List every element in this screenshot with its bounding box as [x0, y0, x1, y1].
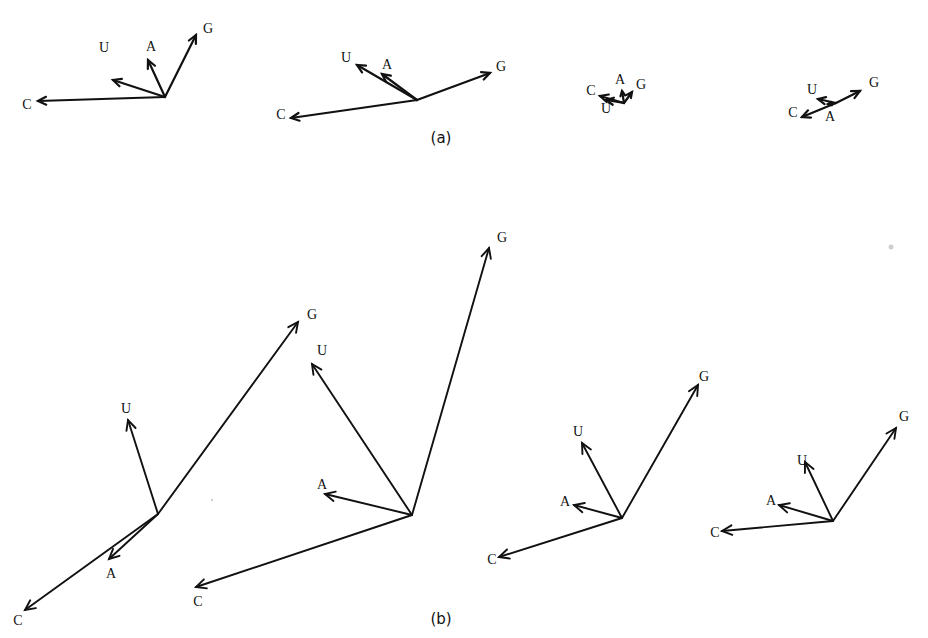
diagram-b-2: CUAG [193, 230, 507, 609]
base-label-c: C [276, 107, 285, 122]
base-label-a: A [560, 494, 571, 509]
vector-g: G [624, 77, 646, 103]
vector-g: G [165, 21, 213, 97]
base-label-u: U [317, 343, 327, 358]
panel-a: CUAGCUAGCUAGCUAG (a) [22, 21, 879, 147]
vector-shaft [499, 518, 622, 557]
vector-shaft [622, 385, 698, 518]
vector-a: A [146, 39, 165, 97]
diagram-b-4: CUAG [710, 409, 909, 540]
vector-shaft [128, 420, 158, 514]
base-label-u: U [341, 50, 351, 65]
diagram-a-3: CUAG [586, 72, 646, 116]
vector-shaft [382, 74, 417, 100]
vector-c: C [13, 514, 158, 628]
base-label-u: U [121, 401, 131, 416]
vector-c: C [487, 518, 622, 567]
vector-diagram-figure: CUAGCUAGCUAGCUAG (a) CUAGCUAGCUAGCUAG (b… [0, 0, 928, 638]
vector-g: G [417, 59, 506, 100]
base-label-u: U [573, 424, 583, 439]
panel-a-diagrams: CUAGCUAGCUAGCUAG [22, 21, 879, 124]
diagram-a-2: CUAG [276, 50, 506, 122]
diagram-b-3: CUAG [487, 369, 709, 567]
vector-shaft [325, 494, 412, 515]
vector-shaft [196, 515, 412, 587]
vector-shaft [805, 462, 833, 521]
base-label-g: G [307, 307, 317, 322]
vector-a: A [106, 514, 158, 581]
diagram-b-1: CUAG [13, 307, 317, 628]
panel-b: CUAGCUAGCUAGCUAG (b) [13, 230, 909, 628]
vector-shaft [833, 428, 896, 521]
diagram-a-4: CUAG [788, 75, 879, 124]
base-label-c: C [586, 83, 595, 98]
base-label-u: U [807, 82, 817, 97]
vector-a: A [317, 477, 412, 515]
base-label-c: C [487, 552, 496, 567]
vector-c: C [193, 515, 412, 609]
base-label-c: C [193, 594, 202, 609]
base-label-g: G [203, 21, 213, 36]
base-label-a: A [317, 477, 328, 492]
vector-a: A [560, 494, 622, 518]
base-label-c: C [710, 525, 719, 540]
vector-g: G [833, 409, 909, 521]
vector-shaft [38, 97, 165, 101]
vector-c: C [22, 97, 165, 112]
vector-c: C [276, 100, 417, 122]
panel-b-diagrams: CUAGCUAGCUAGCUAG [13, 230, 909, 628]
base-label-a: A [615, 72, 626, 87]
base-label-a: A [825, 109, 836, 124]
panel-a-label: (a) [431, 129, 452, 147]
base-label-g: G [699, 369, 709, 384]
base-label-a: A [766, 493, 777, 508]
vector-shaft [417, 73, 490, 100]
base-label-c: C [13, 613, 22, 628]
base-label-a: A [146, 39, 157, 54]
vector-a: A [382, 57, 417, 100]
base-label-u: U [797, 453, 807, 468]
vector-shaft [109, 514, 158, 559]
vector-c: C [710, 521, 833, 540]
vector-a: A [615, 72, 626, 103]
vector-g: G [622, 369, 709, 518]
vector-shaft [25, 514, 158, 610]
vector-u: U [797, 453, 833, 521]
base-label-u: U [99, 40, 109, 55]
diagram-a-1: CUAG [22, 21, 213, 112]
vector-shaft [158, 322, 298, 514]
vector-u: U [601, 98, 624, 117]
base-label-g: G [636, 77, 646, 92]
panel-b-label: (b) [430, 610, 451, 628]
vector-shaft [312, 364, 412, 515]
vector-g: G [836, 75, 879, 103]
vector-g: G [412, 230, 507, 515]
base-label-g: G [899, 409, 909, 424]
vector-shaft [412, 248, 489, 515]
vector-shaft [165, 35, 196, 97]
vector-shaft [291, 100, 417, 118]
base-label-g: G [869, 75, 879, 90]
base-label-a: A [106, 566, 117, 581]
vector-a: A [766, 493, 833, 521]
scan-speck [211, 499, 213, 501]
base-label-u: U [601, 101, 611, 116]
base-label-g: G [496, 59, 506, 74]
vector-u: U [121, 401, 158, 514]
vector-shaft [722, 521, 833, 531]
vector-shaft [582, 443, 622, 518]
base-label-a: A [382, 57, 393, 72]
scan-speck [889, 245, 894, 250]
vector-a: A [825, 102, 836, 124]
base-label-c: C [788, 105, 797, 120]
vector-g: G [158, 307, 317, 514]
base-label-c: C [22, 97, 31, 112]
base-label-g: G [497, 230, 507, 245]
